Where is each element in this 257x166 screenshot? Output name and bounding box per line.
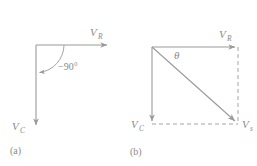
phasor-diagram-figure: V R −90° V C (a) θ V R	[0, 0, 257, 166]
figure-canvas: V R −90° V C (a) θ V R	[0, 0, 257, 166]
panel-a-vc-label: V C	[12, 120, 26, 135]
panel-b-vc-label: V C	[131, 118, 145, 133]
panel-a-vr-subscript: R	[97, 32, 103, 41]
panel-b-theta-label: θ	[174, 49, 180, 61]
panel-b-vr-symbol: V	[219, 28, 227, 40]
panel-b-caption: (b)	[130, 146, 142, 158]
panel-a: V R −90° V C (a)	[10, 26, 107, 157]
panel-b-vr-label: V R	[219, 28, 232, 43]
panel-a-vr-label: V R	[90, 26, 103, 41]
panel-b-vc-subscript: C	[139, 124, 145, 133]
panel-b-resultant-label: V s	[242, 118, 253, 133]
panel-a-vr-symbol: V	[90, 26, 98, 38]
panel-a-angle-label: −90°	[58, 61, 78, 72]
panel-a-vc-symbol: V	[12, 120, 20, 132]
panel-b-vr-subscript: R	[226, 34, 232, 43]
panel-b-vs-symbol: V	[242, 118, 250, 130]
panel-b: θ V R V C V s (b)	[130, 28, 253, 158]
panel-b-vs-subscript: s	[250, 124, 253, 133]
panel-a-vc-subscript: C	[20, 126, 26, 135]
panel-b-vc-symbol: V	[131, 118, 139, 130]
panel-a-caption: (a)	[10, 145, 21, 157]
panel-b-resultant-vector	[152, 47, 235, 121]
